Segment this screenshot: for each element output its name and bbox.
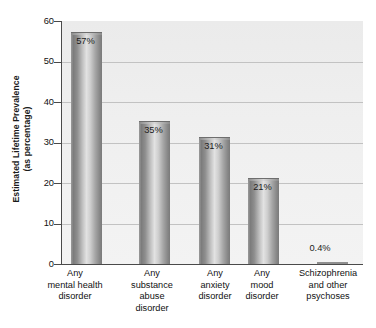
x-cat-2-line-4: disorder — [112, 303, 192, 315]
x-category-schizophrenia-and-other-psychoses: Schizophrenia and other psychoses — [282, 268, 374, 303]
y-tick-label-20: 20 — [14, 179, 54, 188]
x-cat-5-line-2: and other — [282, 280, 374, 292]
y-tick-40 — [54, 102, 61, 103]
y-tick-label-50: 50 — [14, 57, 54, 66]
gridline-40 — [62, 102, 363, 103]
y-tick-label-10: 10 — [14, 219, 54, 228]
bar-value-1: 57% — [70, 36, 101, 46]
y-tick-60 — [54, 21, 61, 22]
y-tick-10 — [54, 224, 61, 225]
bar-any-substance-abuse-disorder — [139, 121, 170, 264]
x-cat-1-line-3: disorder — [30, 291, 120, 303]
bar-value-5: 0.4% — [300, 243, 340, 253]
gridline-50 — [62, 62, 363, 63]
bar-cap-4 — [248, 179, 279, 181]
x-cat-1-line-2: mental health — [30, 280, 120, 292]
y-tick-30 — [54, 143, 61, 144]
y-tick-0 — [54, 264, 61, 265]
y-tick-label-60: 60 — [14, 17, 54, 26]
bar-cap-1 — [71, 33, 102, 35]
x-cat-1-line-1: Any — [30, 268, 120, 280]
bar-any-mental-health-disorder — [71, 32, 102, 264]
bar-chart: Estimated Lifetime Prevalence (as percen… — [0, 0, 376, 328]
bar-value-3: 31% — [198, 141, 229, 151]
y-tick-label-30: 30 — [14, 138, 54, 147]
bar-schizophrenia-and-other-psychoses — [317, 262, 348, 264]
bar-value-2: 35% — [138, 125, 169, 135]
bar-value-4: 21% — [247, 182, 278, 192]
bar-any-anxiety-disorder — [199, 137, 230, 264]
y-tick-50 — [54, 62, 61, 63]
y-tick-label-40: 40 — [14, 98, 54, 107]
x-cat-5-line-3: psychoses — [282, 291, 374, 303]
bar-cap-2 — [139, 122, 170, 124]
x-cat-5-line-1: Schizophrenia — [282, 268, 374, 280]
y-tick-20 — [54, 183, 61, 184]
x-category-any-mental-health-disorder: Any mental health disorder — [30, 268, 120, 303]
